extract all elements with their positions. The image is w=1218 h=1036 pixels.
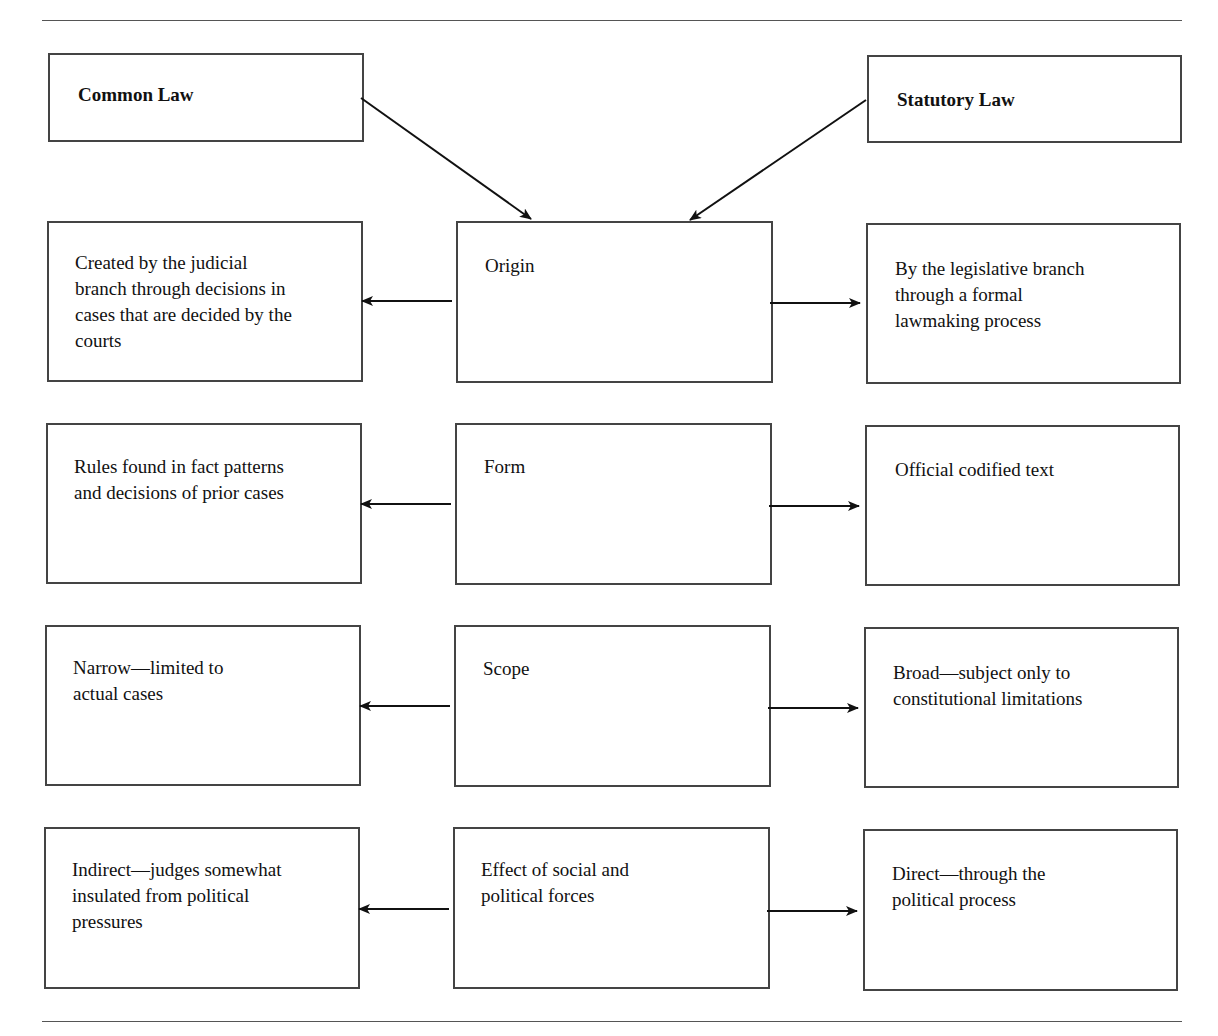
bottom-rule	[42, 1021, 1182, 1022]
criterion-scope-label: Scope	[483, 656, 529, 682]
statutory-law-label: Statutory Law	[897, 87, 1015, 113]
statutory-law-scope-box: Broad—subject only to constitutional lim…	[864, 627, 1179, 788]
statutory-law-effect-text: Direct—through the political process	[892, 861, 1046, 913]
common-law-label: Common Law	[78, 82, 194, 108]
common-law-effect-box: Indirect—judges somewhat insulated from …	[44, 827, 360, 989]
statutory-law-form-text: Official codified text	[895, 457, 1054, 483]
criterion-origin-label: Origin	[485, 253, 535, 279]
common-law-origin-text: Created by the judicial branch through d…	[75, 250, 292, 354]
statutory-law-origin-text: By the legislative branch through a form…	[895, 256, 1084, 334]
common-law-scope-text: Narrow—limited to actual cases	[73, 655, 223, 707]
statutory-law-origin-box: By the legislative branch through a form…	[866, 223, 1181, 384]
criterion-effect-label: Effect of social and political forces	[481, 857, 629, 909]
common-law-effect-text: Indirect—judges somewhat insulated from …	[72, 857, 281, 935]
statutory-law-box: Statutory Law	[867, 55, 1182, 143]
common-law-scope-box: Narrow—limited to actual cases	[45, 625, 361, 786]
arrow-statutory-to-origin	[690, 100, 866, 220]
common-law-origin-box: Created by the judicial branch through d…	[47, 221, 363, 382]
common-law-form-box: Rules found in fact patterns and decisio…	[46, 423, 362, 584]
arrow-common-to-origin	[361, 98, 531, 219]
criterion-form-box: Form	[455, 423, 772, 585]
statutory-law-effect-box: Direct—through the political process	[863, 829, 1178, 991]
common-law-box: Common Law	[48, 53, 364, 142]
statutory-law-form-box: Official codified text	[865, 425, 1180, 586]
criterion-effect-box: Effect of social and political forces	[453, 827, 770, 989]
criterion-origin-box: Origin	[456, 221, 773, 383]
criterion-form-label: Form	[484, 454, 525, 480]
criterion-scope-box: Scope	[454, 625, 771, 787]
common-law-form-text: Rules found in fact patterns and decisio…	[74, 454, 284, 506]
statutory-law-scope-text: Broad—subject only to constitutional lim…	[893, 660, 1082, 712]
top-rule	[42, 20, 1182, 21]
